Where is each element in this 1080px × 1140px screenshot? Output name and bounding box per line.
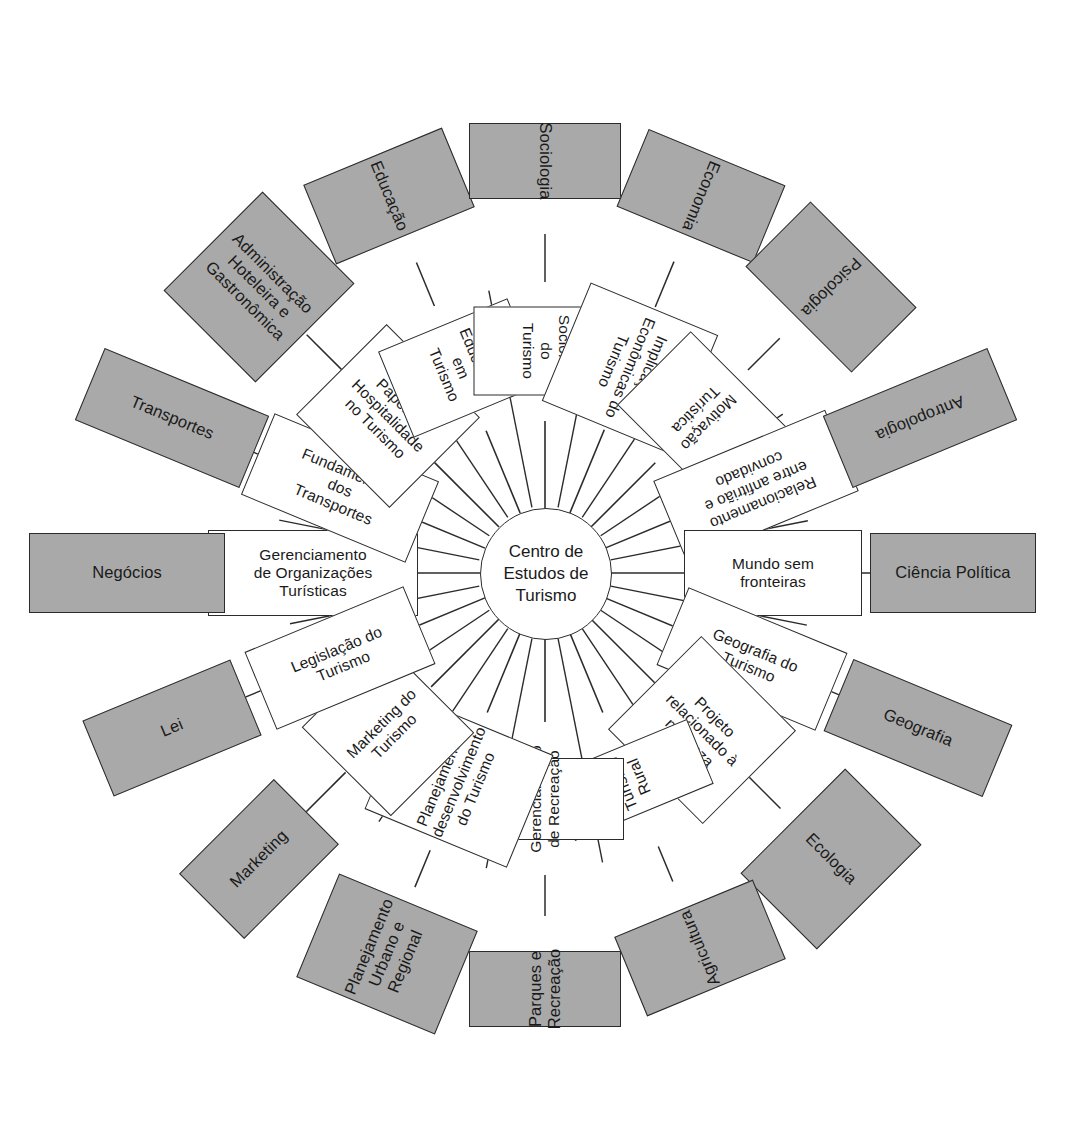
connector-educacao (416, 263, 434, 306)
spoke-line-motivacao-turistica (591, 463, 655, 527)
spoke-line-projeto-relacionado-a-natureza (591, 619, 657, 685)
outer-node-ciencia-politica[interactable]: Ciência Política (870, 533, 1036, 613)
spoke-line-educacao-em-turismo (486, 431, 520, 513)
spoke-line-implicacoes-economicas-do-turismo (570, 430, 604, 513)
spoke-line-turismo-rural (570, 633, 603, 712)
connector-agricultura (658, 846, 673, 881)
radial-diagram-canvas: Centro de Estudos de Turismo Gerenciamen… (0, 0, 1080, 1140)
connector-ecologia (747, 775, 781, 809)
spoke-line-marketing-do-turismo (431, 619, 499, 687)
outer-node-sociologia[interactable]: Sociologia (469, 123, 621, 199)
spoke-line-papel-da-hospitalidade-no-turismo (432, 460, 499, 527)
outer-node-negocios[interactable]: Negócios (29, 533, 225, 613)
spoke-line-planejamento-e-desenvolvimento-do-turismo (487, 633, 520, 712)
center-node-centro-de-estudos-de-turismo: Centro de Estudos de Turismo (480, 508, 612, 640)
connector-planejamento-urbano-e-regional (415, 850, 430, 887)
connector-administracao-hoteleira-e-gastronomica (307, 335, 345, 373)
outer-node-parques-e-recreacao[interactable]: Parques e Recreação (469, 951, 621, 1027)
connector-economia (655, 262, 674, 307)
connector-psicologia (748, 338, 780, 370)
